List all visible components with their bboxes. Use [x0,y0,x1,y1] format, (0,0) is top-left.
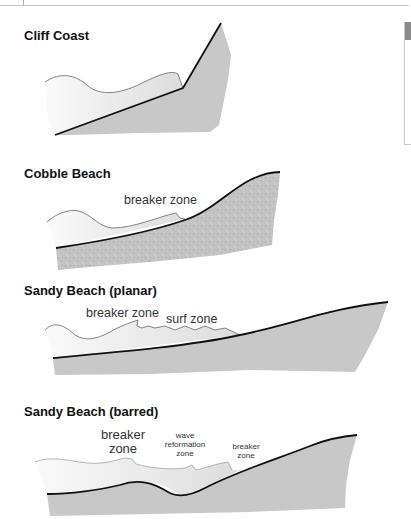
barred-wave-reformation-zone-label: wave reformation zone [160,432,210,458]
barred-breaker-zone-label-1: breaker zone [100,428,146,457]
section-title-sandy-planar: Sandy Beach (planar) [24,283,157,298]
label-line: zone [229,452,263,461]
barred-breaker-zone-label-2: breaker zone [229,443,263,461]
section-title-cliff-coast: Cliff Coast [24,28,89,43]
label-line: zone [160,450,210,459]
section-title-sandy-barred: Sandy Beach (barred) [24,404,158,419]
section-title-cobble-beach: Cobble Beach [24,166,111,181]
cobble-beach-profile [47,172,280,270]
label-line: zone [100,442,146,456]
cobble-breaker-zone-label: breaker zone [124,194,197,208]
label-line: breaker [100,428,146,442]
planar-surf-zone-label: surf zone [166,313,217,327]
planar-breaker-zone-label: breaker zone [86,307,159,321]
